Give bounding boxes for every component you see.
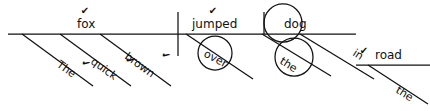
check-icon-fox: ✔: [81, 5, 89, 16]
diagram-word-dog: dog: [284, 17, 307, 31]
diagram-stroke-slant-the-2: [262, 34, 331, 76]
diagram-word-jumped: jumped: [191, 17, 237, 31]
diagram-word-quick: quick: [88, 55, 120, 83]
check-icon-brown: ✔: [159, 48, 172, 62]
diagram-word-the-1: The: [53, 57, 78, 80]
diagram-word-brown: brown: [122, 50, 157, 80]
sentence-diagram-canvas: The✔quick✔brown✔fox✔jumped✔overdogtheinr…: [0, 0, 430, 111]
sentence-diagram-svg: The✔quick✔brown✔fox✔jumped✔overdogtheinr…: [0, 0, 430, 111]
diagram-word-road: road: [375, 48, 402, 62]
diagram-word-the-3: the: [393, 84, 415, 105]
check-icon-road: ✔: [360, 45, 368, 56]
diagram-word-fox: fox: [77, 17, 95, 31]
diagram-stroke-slant-in: [300, 34, 374, 79]
diagram-word-the-2: the: [277, 55, 299, 76]
check-icon-jumped: ✔: [209, 5, 217, 16]
diagram-stroke-slant-the-3: [368, 65, 428, 104]
